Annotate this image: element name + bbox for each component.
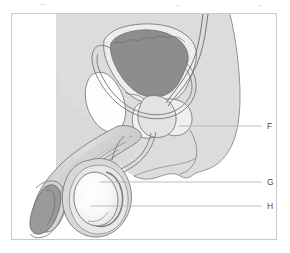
label-f: F [267, 122, 272, 131]
screenshot-root: F G H [0, 0, 290, 253]
label-h: H [267, 202, 273, 211]
anatomy-diagram [0, 0, 290, 253]
label-g: G [267, 178, 274, 187]
